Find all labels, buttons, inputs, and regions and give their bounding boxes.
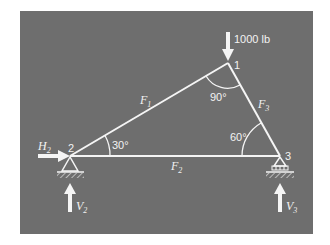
angle-60-label: 60°: [230, 131, 247, 143]
reaction-v2-arrow: [64, 183, 76, 212]
node-1-label: 1: [234, 59, 240, 71]
node-3-label: 3: [285, 150, 291, 162]
reaction-v2-label: V2: [76, 199, 87, 215]
angle-arc-30: [105, 136, 110, 157]
members: [70, 63, 280, 156]
reaction-v3-arrow: [274, 183, 286, 212]
truss-diagram: 1000 lb 1 2 3 F1 F2 F3 30° 90° 60° H2 V2: [0, 0, 330, 245]
reaction-h2-label: H2: [37, 139, 51, 155]
load-label: 1000 lb: [234, 33, 270, 45]
member-f2-label: F2: [170, 159, 182, 175]
angle-90-label: 90°: [210, 91, 227, 103]
member-f1: [70, 63, 228, 156]
angle-arc-90: [206, 76, 240, 88]
angle-30-label: 30°: [112, 139, 129, 151]
node-2-label: 2: [68, 142, 74, 154]
load-arrow: [222, 32, 234, 61]
member-f1-label: F1: [139, 93, 151, 109]
reaction-v3-label: V3: [286, 199, 297, 215]
member-f3-label: F3: [257, 97, 269, 113]
